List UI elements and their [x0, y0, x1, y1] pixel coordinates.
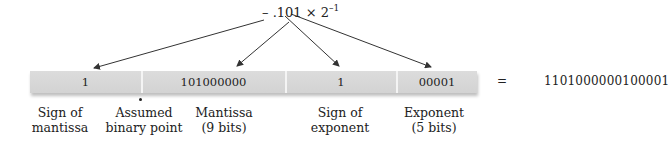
formula-exponent: –1 [329, 3, 339, 13]
label-mantissa: Mantissa (9 bits) [184, 105, 264, 135]
result-binary: 1101000000100001 [544, 74, 669, 88]
label-exponent: Exponent (5 bits) [394, 105, 474, 135]
formula: – .101 × 2–1 [262, 4, 339, 20]
arrow-sign-mantissa [94, 20, 264, 68]
bit-field-bar: 1 101000000 1 00001 [30, 71, 477, 93]
arrow-sign-exponent [285, 16, 339, 66]
label-sign-mantissa: Sign of mantissa [20, 105, 100, 135]
field-exponent: 00001 [397, 71, 477, 93]
field-mantissa: 101000000 [142, 71, 285, 93]
label-sign-exponent: Sign of exponent [300, 105, 380, 135]
binary-point-marker [139, 98, 142, 101]
field-sign-mantissa: 1 [30, 71, 141, 93]
formula-base: – .101 × 2 [262, 5, 329, 20]
field-sign-exponent: 1 [286, 71, 396, 93]
label-binary-point: Assumed binary point [104, 105, 184, 135]
arrow-mantissa [237, 22, 289, 66]
equals-sign: = [497, 74, 507, 88]
